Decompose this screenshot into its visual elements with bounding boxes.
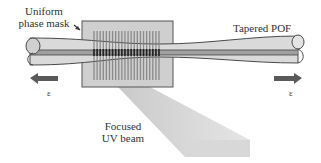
phase-mask-label: Uniform phase mask (14, 5, 74, 29)
strain-label-right: ε (289, 88, 293, 98)
uv-beam-label-line1: Focused (98, 120, 148, 132)
strain-arrow-right (274, 73, 302, 84)
uv-beam-label-line2: UV beam (98, 132, 148, 144)
fiber-left-end (26, 38, 40, 54)
diagram: Uniform phase mask Tapered POF Focused U… (0, 0, 321, 163)
fiber-right-end (292, 35, 304, 49)
uv-beam-label: Focused UV beam (98, 120, 148, 144)
strain-label-left: ε (47, 88, 51, 98)
strain-arrow-left (30, 73, 58, 84)
phase-mask-label-line2: phase mask (14, 17, 74, 29)
fiber-label: Tapered POF (233, 22, 291, 34)
phase-mask-label-line1: Uniform (14, 5, 74, 17)
mask-pointer-arrow (74, 25, 80, 30)
